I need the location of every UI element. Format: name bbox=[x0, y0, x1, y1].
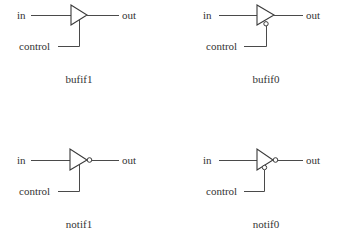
gate-caption: bufif0 bbox=[253, 73, 280, 85]
control-wire bbox=[58, 165, 80, 192]
gate-caption: notif1 bbox=[66, 218, 92, 230]
control-label: control bbox=[19, 185, 50, 197]
control-label: control bbox=[206, 185, 237, 197]
gate-bufif0: in out control bufif0 bbox=[203, 5, 320, 85]
control-label: control bbox=[206, 40, 237, 52]
gate-notif1: in out control notif1 bbox=[17, 149, 136, 230]
control-wire bbox=[58, 20, 80, 47]
output-label: out bbox=[306, 154, 320, 166]
output-label: out bbox=[306, 9, 320, 21]
input-label: in bbox=[203, 154, 212, 166]
inverter-triangle-icon bbox=[70, 149, 87, 170]
output-inversion-bubble-icon bbox=[87, 158, 92, 163]
gate-caption: notif0 bbox=[253, 218, 280, 230]
control-inversion-bubble-icon bbox=[264, 22, 268, 26]
control-label: control bbox=[19, 40, 50, 52]
tristate-gates-diagram: in out control bufif1 in out control buf… bbox=[0, 0, 338, 238]
input-label: in bbox=[17, 154, 26, 166]
output-label: out bbox=[122, 154, 136, 166]
control-inversion-bubble-icon bbox=[262, 165, 266, 169]
gate-caption: bufif1 bbox=[66, 73, 93, 85]
input-label: in bbox=[17, 9, 26, 21]
control-wire bbox=[244, 26, 267, 47]
gate-notif0: in out control notif0 bbox=[203, 149, 320, 230]
gate-bufif1: in out control bufif1 bbox=[17, 5, 136, 85]
control-wire bbox=[244, 170, 265, 192]
output-label: out bbox=[122, 9, 136, 21]
output-inversion-bubble-icon bbox=[273, 158, 278, 163]
input-label: in bbox=[203, 9, 212, 21]
